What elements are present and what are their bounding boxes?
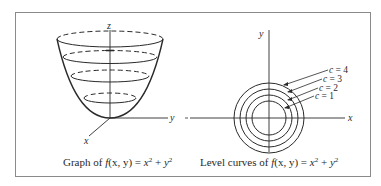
- x-axis-label-2d: x: [347, 112, 353, 123]
- paraboloid-graph: [57, 30, 168, 136]
- figure-canvas: z y x Graph of f(x, y) = x2 + y2 y x c =…: [0, 0, 381, 186]
- left-caption: Graph of f(x, y) = x2 + y2: [63, 156, 173, 169]
- right-caption: Level curves of f(x, y) = x2 + y2: [200, 156, 339, 169]
- x-axis-label-3d: x: [83, 135, 89, 146]
- y-axis-label-3d: y: [169, 112, 175, 123]
- level-label-c1: c = 1: [315, 91, 334, 101]
- leader-c2: [288, 88, 318, 100]
- arrowhead-icon: [283, 82, 288, 86]
- z-axis-label: z: [106, 20, 111, 31]
- x-axis-3d: [89, 118, 110, 136]
- y-axis-label-2d: y: [258, 28, 264, 39]
- arrowhead-icon: [284, 105, 289, 109]
- paraboloid-figure: z y x Graph of f(x, y) = x2 + y2 y x c =…: [0, 0, 381, 186]
